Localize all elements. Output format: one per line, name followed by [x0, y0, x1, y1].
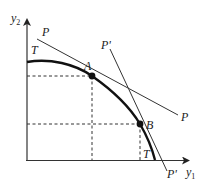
point-b [137, 121, 144, 128]
ppf-diagram: y2 y1 T T P P P' P' A B [0, 0, 204, 184]
curve-t-label-bottom: T [143, 147, 151, 161]
price-line-p-prime [110, 49, 167, 171]
curve-t-label-top: T [31, 43, 39, 57]
line-p-label-end: P [180, 110, 189, 124]
y1-axis-label: y1 [185, 165, 195, 181]
point-b-label: B [146, 118, 154, 132]
line-p-label-start: P [41, 25, 50, 39]
y2-axis-label: y2 [10, 11, 20, 27]
dashed-guides [27, 76, 140, 160]
point-a [89, 73, 96, 80]
line-p-prime-label-end: P' [166, 167, 177, 181]
point-a-label: A [83, 59, 92, 73]
line-p-prime-label-start: P' [100, 38, 111, 52]
